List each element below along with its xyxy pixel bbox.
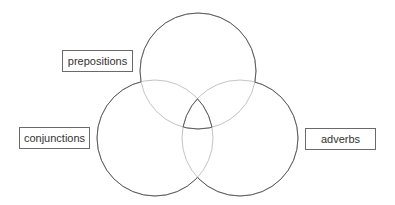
adverbs-circle-inner-arc [182,80,298,196]
conjunctions-circle [97,80,213,196]
prepositions-circle [140,13,256,129]
conjunctions-circle-inner-arc [97,80,213,196]
adverbs-label: adverbs [305,128,376,150]
adverbs-label-text: adverbs [321,133,360,145]
adverbs-circle [182,80,298,196]
prepositions-circle-inner-arc [140,13,256,129]
conjunctions-label: conjunctions [19,127,90,149]
venn-diagram [0,0,395,205]
prepositions-label: prepositions [62,50,133,72]
conjunctions-label-text: conjunctions [24,132,85,144]
prepositions-label-text: prepositions [68,55,127,67]
